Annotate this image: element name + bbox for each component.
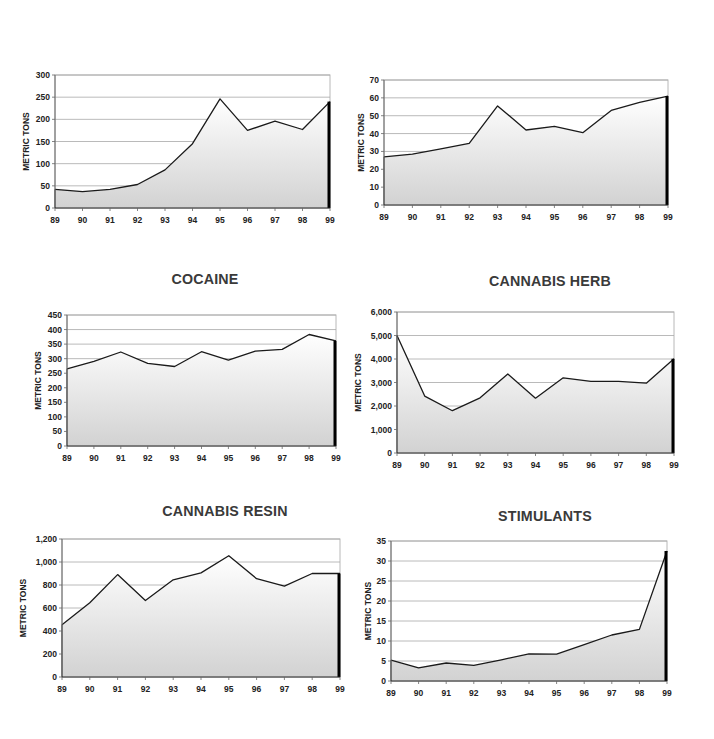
x-tick-label: 91 [441, 688, 451, 698]
y-tick-label: 150 [36, 137, 50, 147]
y-axis-label: METRIC TONS [33, 351, 43, 410]
x-tick-label: 97 [607, 688, 617, 698]
y-tick-label: 40 [370, 129, 380, 139]
y-tick-label: 400 [48, 325, 62, 335]
x-tick-label: 93 [497, 688, 507, 698]
y-tick-label: 1,000 [371, 425, 393, 435]
y-tick-label: 0 [374, 200, 379, 210]
x-tick-label: 89 [386, 688, 396, 698]
plot-heroin-and-morphine: 0102030405060708990919293949596979899MET… [356, 75, 673, 222]
x-tick-label: 97 [280, 684, 290, 694]
y-tick-label: 0 [381, 676, 386, 686]
x-tick-label: 89 [57, 684, 67, 694]
y-tick-label: 300 [48, 354, 62, 364]
x-tick-label: 93 [503, 460, 513, 470]
x-tick-label: 94 [197, 453, 207, 463]
x-tick-label: 91 [436, 212, 446, 222]
y-tick-label: 100 [36, 159, 50, 169]
x-tick-label: 96 [579, 688, 589, 698]
x-tick-label: 94 [531, 460, 541, 470]
y-tick-label: 0 [52, 672, 57, 682]
y-tick-label: 350 [48, 339, 62, 349]
y-tick-label: 3,000 [371, 378, 393, 388]
x-tick-label: 90 [408, 212, 418, 222]
y-tick-label: 200 [43, 649, 57, 659]
x-tick-label: 98 [635, 688, 645, 698]
plot-stimulants: 051015202530358990919293949596979899METR… [363, 536, 672, 698]
x-tick-label: 90 [414, 688, 424, 698]
y-tick-label: 150 [48, 397, 62, 407]
x-tick-label: 95 [215, 215, 225, 225]
y-tick-label: 2,000 [371, 401, 393, 411]
y-tick-label: 5 [381, 656, 386, 666]
x-tick-label: 98 [298, 215, 308, 225]
y-tick-label: 10 [377, 636, 387, 646]
y-tick-label: 1,000 [36, 557, 58, 567]
x-tick-label: 96 [252, 684, 262, 694]
y-tick-label: 6,000 [371, 307, 393, 317]
x-tick-label: 89 [62, 453, 72, 463]
y-tick-label: 30 [370, 146, 380, 156]
x-tick-label: 89 [379, 212, 389, 222]
x-tick-label: 91 [113, 684, 123, 694]
x-tick-label: 93 [493, 212, 503, 222]
x-tick-label: 91 [116, 453, 126, 463]
x-tick-label: 96 [578, 212, 588, 222]
y-tick-label: 20 [370, 164, 380, 174]
x-tick-label: 90 [420, 460, 430, 470]
x-tick-label: 97 [277, 453, 287, 463]
y-tick-label: 60 [370, 93, 380, 103]
y-tick-label: 15 [377, 616, 387, 626]
y-tick-label: 50 [370, 111, 380, 121]
y-tick-label: 200 [36, 114, 50, 124]
y-tick-label: 300 [36, 70, 50, 80]
x-tick-label: 99 [325, 215, 335, 225]
y-tick-label: 5,000 [371, 331, 393, 341]
x-tick-label: 95 [224, 453, 234, 463]
y-tick-label: 600 [43, 603, 57, 613]
x-tick-label: 93 [160, 215, 170, 225]
x-tick-label: 94 [188, 215, 198, 225]
x-tick-label: 94 [524, 688, 534, 698]
x-tick-label: 99 [335, 684, 345, 694]
y-axis-label: METRIC TONS [21, 112, 31, 171]
x-tick-label: 92 [475, 460, 485, 470]
x-tick-label: 95 [558, 460, 568, 470]
x-tick-label: 96 [251, 453, 261, 463]
y-tick-label: 0 [387, 448, 392, 458]
x-tick-label: 98 [642, 460, 652, 470]
y-tick-label: 25 [377, 576, 387, 586]
x-tick-label: 92 [143, 453, 153, 463]
y-tick-label: 0 [45, 203, 50, 213]
y-tick-label: 400 [43, 626, 57, 636]
plot-opium: 0501001502002503008990919293949596979899… [21, 70, 335, 225]
y-tick-label: 30 [377, 556, 387, 566]
y-tick-label: 50 [41, 181, 51, 191]
x-tick-label: 90 [89, 453, 99, 463]
y-tick-label: 4,000 [371, 354, 393, 364]
y-tick-label: 70 [370, 75, 380, 85]
x-tick-label: 97 [606, 212, 616, 222]
x-tick-label: 89 [50, 215, 60, 225]
y-tick-label: 20 [377, 596, 387, 606]
x-tick-label: 99 [663, 212, 673, 222]
plot-cannabis-herb: 01,0002,0003,0004,0005,0006,000899091929… [353, 307, 679, 470]
x-tick-label: 92 [133, 215, 143, 225]
x-tick-label: 90 [78, 215, 88, 225]
y-tick-label: 250 [36, 92, 50, 102]
x-tick-label: 95 [550, 212, 560, 222]
x-tick-label: 93 [170, 453, 180, 463]
y-tick-label: 10 [370, 182, 380, 192]
x-tick-label: 89 [392, 460, 402, 470]
x-tick-label: 96 [243, 215, 253, 225]
x-tick-label: 92 [464, 212, 474, 222]
y-tick-label: 1,200 [36, 534, 58, 544]
x-tick-label: 91 [105, 215, 115, 225]
x-tick-label: 94 [196, 684, 206, 694]
x-tick-label: 99 [669, 460, 679, 470]
y-tick-label: 0 [57, 441, 62, 451]
y-axis-label: METRIC TONS [356, 113, 366, 172]
plot-cannabis-resin: 02004006008001,0001,20089909192939495969… [18, 534, 345, 694]
x-tick-label: 99 [331, 453, 341, 463]
x-tick-label: 91 [448, 460, 458, 470]
